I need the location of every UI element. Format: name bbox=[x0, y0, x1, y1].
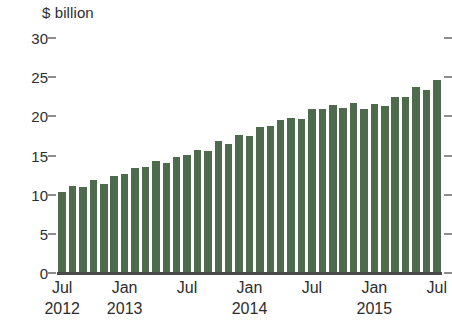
bar-chart: $ billion Jul2012Jan2013JulJan2014JulJan… bbox=[0, 0, 452, 327]
y-axis-tick-mark-left bbox=[48, 233, 56, 235]
bar bbox=[329, 105, 336, 273]
bar bbox=[350, 103, 357, 273]
x-axis-year-label: 2012 bbox=[44, 298, 80, 319]
bar bbox=[256, 127, 263, 273]
bar-slot bbox=[317, 38, 327, 273]
bar bbox=[121, 174, 128, 273]
bar-slot bbox=[328, 38, 338, 273]
y-axis-tick-label: 0 bbox=[40, 265, 48, 282]
y-axis-tick-mark-left bbox=[48, 37, 56, 39]
bar bbox=[381, 106, 388, 273]
bar bbox=[204, 151, 211, 273]
y-axis-tick-label: 30 bbox=[31, 30, 48, 47]
bar bbox=[287, 118, 294, 273]
bar-slot bbox=[348, 38, 358, 273]
bar-slot bbox=[161, 38, 171, 273]
bar-slot bbox=[67, 38, 77, 273]
bar bbox=[246, 136, 253, 273]
x-axis-baseline bbox=[57, 272, 442, 275]
x-axis-month-label: Jan bbox=[357, 278, 393, 298]
bar bbox=[58, 192, 65, 273]
bar-slot bbox=[192, 38, 202, 273]
x-axis-tick-label: Jan2013 bbox=[107, 278, 143, 319]
bar bbox=[423, 90, 430, 273]
x-axis-tick-label: Jan2014 bbox=[232, 278, 268, 319]
x-axis-year-label: 2013 bbox=[107, 298, 143, 319]
bar-slot bbox=[57, 38, 67, 273]
bar bbox=[79, 187, 86, 273]
x-axis-month-label: Jul bbox=[177, 278, 197, 298]
bar bbox=[319, 109, 326, 273]
y-axis-tick-mark-right bbox=[444, 37, 452, 39]
y-axis-tick-mark-right bbox=[444, 233, 452, 235]
plot-area bbox=[57, 38, 442, 273]
bar bbox=[402, 97, 409, 273]
x-axis-tick-label: Jul bbox=[427, 278, 447, 298]
bar-slot bbox=[307, 38, 317, 273]
y-axis-tick-mark-left bbox=[48, 272, 56, 274]
bar-slot bbox=[78, 38, 88, 273]
bar bbox=[235, 135, 242, 273]
bar bbox=[110, 176, 117, 273]
bar-slot bbox=[296, 38, 306, 273]
bar-slot bbox=[400, 38, 410, 273]
y-axis-tick-mark-right bbox=[444, 155, 452, 157]
x-axis-month-label: Jan bbox=[232, 278, 268, 298]
bar-slot bbox=[224, 38, 234, 273]
bar-slot bbox=[359, 38, 369, 273]
x-axis-tick-label: Jan2015 bbox=[357, 278, 393, 319]
bar-slot bbox=[182, 38, 192, 273]
y-axis-tick-label: 15 bbox=[31, 147, 48, 164]
y-axis-tick-mark-left bbox=[48, 155, 56, 157]
x-axis-month-label: Jul bbox=[302, 278, 322, 298]
x-axis-labels: Jul2012Jan2013JulJan2014JulJan2015Jul bbox=[0, 278, 452, 324]
y-axis-unit-label: $ billion bbox=[42, 4, 94, 21]
y-axis-tick-label: 25 bbox=[31, 69, 48, 86]
y-axis-tick-mark-right bbox=[444, 194, 452, 196]
x-axis-tick-label: Jul bbox=[302, 278, 322, 298]
y-axis-tick-label: 5 bbox=[40, 225, 48, 242]
bar bbox=[308, 109, 315, 274]
bar-slot bbox=[369, 38, 379, 273]
bar bbox=[339, 108, 346, 273]
bar bbox=[163, 163, 170, 273]
x-axis-year-label: 2014 bbox=[232, 298, 268, 319]
x-axis-tick-label: Jul2012 bbox=[44, 278, 80, 319]
bar-slot bbox=[421, 38, 431, 273]
bar bbox=[360, 109, 367, 273]
bar-slot bbox=[286, 38, 296, 273]
bar bbox=[277, 120, 284, 273]
bar-slot bbox=[119, 38, 129, 273]
bar bbox=[225, 144, 232, 273]
x-axis-month-label: Jul bbox=[427, 278, 447, 298]
y-axis-tick-mark-right bbox=[444, 115, 452, 117]
bar bbox=[371, 104, 378, 273]
bar bbox=[90, 180, 97, 273]
bar-slot bbox=[130, 38, 140, 273]
bar-slot bbox=[203, 38, 213, 273]
bar bbox=[183, 155, 190, 273]
y-axis-tick-label: 20 bbox=[31, 108, 48, 125]
bar bbox=[194, 150, 201, 273]
bar-slot bbox=[276, 38, 286, 273]
bar bbox=[173, 157, 180, 273]
bar-series bbox=[57, 38, 442, 273]
bar-slot bbox=[390, 38, 400, 273]
bar bbox=[69, 186, 76, 273]
bar-slot bbox=[411, 38, 421, 273]
bar-slot bbox=[380, 38, 390, 273]
bar-slot bbox=[244, 38, 254, 273]
bar bbox=[131, 168, 138, 273]
y-axis-tick-mark-left bbox=[48, 76, 56, 78]
bar-slot bbox=[88, 38, 98, 273]
bar-slot bbox=[171, 38, 181, 273]
x-axis-tick-label: Jul bbox=[177, 278, 197, 298]
x-axis-month-label: Jul bbox=[44, 278, 80, 298]
bar-slot bbox=[265, 38, 275, 273]
bar bbox=[215, 141, 222, 273]
bar bbox=[152, 161, 159, 273]
bar-slot bbox=[151, 38, 161, 273]
bar-slot bbox=[99, 38, 109, 273]
bar-slot bbox=[338, 38, 348, 273]
y-axis-tick-mark-right bbox=[444, 76, 452, 78]
